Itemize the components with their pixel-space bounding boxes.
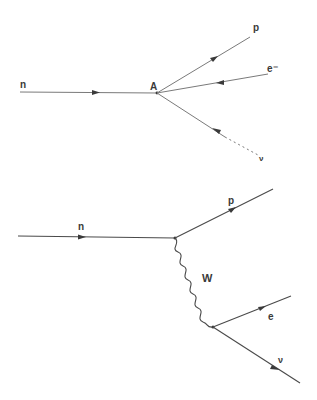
proton-label: p bbox=[253, 22, 259, 33]
neutrino-label: ν bbox=[278, 355, 283, 365]
proton-arrow-icon bbox=[228, 207, 236, 213]
neutron-arrow-icon bbox=[78, 235, 86, 240]
neutrino-line bbox=[213, 327, 300, 383]
neutrino-arrow-icon bbox=[270, 365, 280, 370]
feynman-diagram-figure: n A p e⁻ ν n p W bbox=[0, 0, 317, 400]
incoming-neutron-line bbox=[18, 236, 175, 238]
w-boson-label: W bbox=[202, 272, 213, 284]
lower-diagram: n p W e ν bbox=[18, 189, 300, 383]
electron-line bbox=[213, 296, 291, 327]
neutrino-line-faded bbox=[225, 137, 258, 155]
neutron-label: n bbox=[78, 221, 84, 232]
proton-label: p bbox=[228, 195, 234, 206]
vertex-a-label: A bbox=[150, 81, 157, 92]
electron-label: e bbox=[268, 311, 274, 322]
neutron-arrow-icon bbox=[92, 90, 100, 95]
proton-arrow-icon bbox=[210, 56, 218, 62]
neutron-label: n bbox=[20, 79, 26, 90]
neutrino-label: ν bbox=[259, 154, 264, 163]
proton-line bbox=[175, 189, 273, 238]
incoming-neutron-line bbox=[20, 92, 157, 93]
electron-label: e⁻ bbox=[267, 63, 278, 74]
upper-diagram: n A p e⁻ ν bbox=[20, 22, 278, 163]
electron-arrow-icon bbox=[258, 306, 266, 311]
